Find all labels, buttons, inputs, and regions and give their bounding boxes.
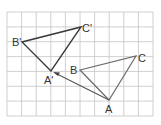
label-a: A — [105, 103, 113, 115]
label-c: C — [138, 52, 146, 64]
triangle-abc — [80, 56, 136, 100]
translation-diagram: A B C A' B' C' — [0, 0, 161, 125]
label-a-prime: A' — [44, 74, 53, 86]
label-c-prime: C' — [82, 22, 92, 34]
label-b: B — [70, 64, 77, 76]
label-b-prime: B' — [12, 36, 21, 48]
